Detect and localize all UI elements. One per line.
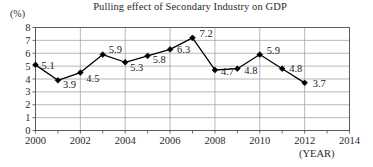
y-axis-tick-label: 4 <box>25 74 31 85</box>
data-point-label: 3.9 <box>63 79 76 90</box>
line-chart-plot: 012345678 200020022004200620082010201220… <box>0 0 373 167</box>
gridlines <box>36 28 350 131</box>
data-point-label: 6.3 <box>177 44 190 55</box>
data-point-label: 5.3 <box>130 62 143 73</box>
data-point-marker <box>145 53 151 59</box>
x-axis-tick-label: 2000 <box>25 135 46 146</box>
data-point-label: 3.7 <box>313 78 326 89</box>
y-axis-tick-label: 1 <box>25 112 30 123</box>
data-point-label: 5.1 <box>42 60 55 71</box>
x-axis-tick-label: 2006 <box>160 135 181 146</box>
x-axis-tick-label: 2002 <box>70 135 91 146</box>
data-point-marker <box>122 59 128 65</box>
data-point-label: 5.9 <box>267 45 280 56</box>
y-axis-tick-label: 7 <box>25 35 30 46</box>
data-point-label: 4.5 <box>86 73 99 84</box>
data-point-label: 7.2 <box>200 28 213 39</box>
y-axis-tick-label: 8 <box>25 22 30 33</box>
data-point-label: 4.8 <box>244 65 257 76</box>
x-axis-unit-label: (YEAR) <box>299 148 335 159</box>
chart-container: Pulling effect of Secondary Industry on … <box>0 0 373 167</box>
data-point-labels: 5.13.94.55.95.35.86.37.24.74.85.94.83.7 <box>42 28 326 90</box>
data-point-marker <box>167 46 173 52</box>
x-axis-tick-label: 2014 <box>339 135 361 146</box>
data-point-label: 5.8 <box>153 54 166 65</box>
data-point-label: 4.7 <box>221 66 234 77</box>
y-axis-tick-label: 2 <box>25 99 30 110</box>
data-point-label: 5.9 <box>109 44 122 55</box>
data-point-label: 4.8 <box>289 63 302 74</box>
x-axis-tick-label: 2010 <box>249 135 270 146</box>
x-axis-tick-label: 2012 <box>294 135 315 146</box>
x-axis-tick-label: 2004 <box>115 135 137 146</box>
y-axis-tick-label: 3 <box>25 86 30 97</box>
y-axis-tick-label: 5 <box>25 61 30 72</box>
x-axis-tick-labels: 20002002200420062008201020122014 <box>25 135 361 146</box>
x-axis-tick-label: 2008 <box>204 135 225 146</box>
y-axis-tick-labels: 012345678 <box>25 22 35 136</box>
y-axis-tick-label: 6 <box>25 48 30 59</box>
